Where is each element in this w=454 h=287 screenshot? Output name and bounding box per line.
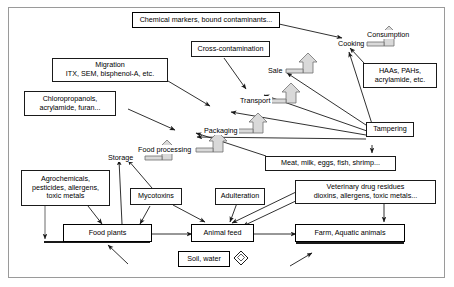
stage-label-transport[interactable]: Transport — [239, 96, 272, 105]
stage-label-consumption[interactable]: Consumption — [366, 30, 410, 39]
block-arrow-icon — [196, 132, 227, 152]
stage-label-food-processing[interactable]: Food processing — [137, 145, 192, 154]
node-mycotoxins[interactable]: Mycotoxins — [130, 188, 182, 205]
node-meat-milk[interactable]: Meat, milk, eggs, fish, shrimp... — [265, 156, 396, 171]
node-label: Meat, milk, eggs, fish, shrimp... — [281, 159, 380, 168]
node-label: Farm, Aquatic animals — [314, 229, 385, 238]
node-animal-feed[interactable]: Animal feed — [191, 224, 254, 242]
node-chemical-markers[interactable]: Chemical markers, bound contaminants... — [132, 12, 280, 28]
node-label: Animal feed — [204, 229, 242, 238]
stage-label-packaging[interactable]: Packaging — [203, 126, 239, 135]
node-label: Chemical markers, bound contaminants... — [140, 16, 273, 25]
node-tampering[interactable]: Tampering — [366, 122, 414, 137]
node-cross-contamination[interactable]: Cross-contamination — [191, 41, 270, 57]
block-arrow-icon — [236, 113, 267, 133]
node-chloropropanols[interactable]: Chloropropanols, acrylamide, furan... — [24, 91, 116, 116]
node-label: toxic metals — [47, 192, 85, 201]
node-label: ITX, SEM, bisphenol-A, etc. — [66, 70, 154, 79]
node-food-plants[interactable]: Food plants — [63, 224, 152, 242]
block-arrow-icon — [286, 53, 317, 73]
block-arrow-icon — [269, 83, 300, 103]
node-label: Tampering — [373, 125, 407, 134]
node-soil-water[interactable]: Soil, water — [178, 251, 230, 267]
node-farm-aquatic-animals[interactable]: Farm, Aquatic animals — [295, 224, 405, 242]
node-label: Cross-contamination — [198, 45, 264, 54]
stage-label-cooking[interactable]: Cooking — [337, 39, 365, 48]
stage-label-sale[interactable]: Sale — [267, 66, 283, 75]
node-adulteration[interactable]: Adulteration — [215, 188, 265, 205]
node-label: Soil, water — [187, 255, 221, 264]
diamond-marker-icon — [233, 250, 249, 266]
diagram-canvas: Chemical markers, bound contaminants... … — [0, 0, 454, 287]
node-label: acrylamide, etc. — [375, 76, 425, 85]
stage-label-storage[interactable]: Storage — [107, 153, 134, 162]
node-label: acrylamide, furan... — [39, 104, 100, 113]
node-label: Mycotoxins — [138, 192, 174, 201]
node-veterinary-residues[interactable]: Veterinary drug residues dioxins, allerg… — [295, 180, 436, 204]
node-migration[interactable]: Migration ITX, SEM, bisphenol-A, etc. — [52, 58, 168, 82]
node-label: dioxins, allergens, toxic metals... — [314, 192, 417, 201]
node-haas-pahs[interactable]: HAAs, PAHs, acrylamide, etc. — [363, 63, 437, 88]
node-label: Adulteration — [221, 192, 259, 201]
node-label: Food plants — [89, 229, 127, 238]
node-agrochemicals[interactable]: Agrochemicals, pesticides, allergens, to… — [21, 170, 110, 206]
